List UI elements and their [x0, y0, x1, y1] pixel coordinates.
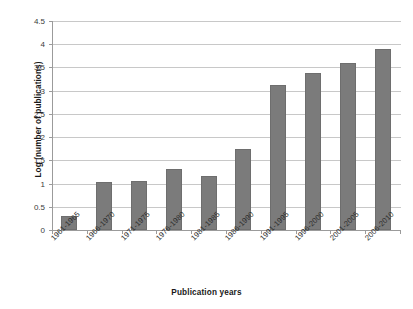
x-axis-tickmark: [87, 230, 88, 234]
y-axis-tick-label: 4.5: [34, 17, 45, 26]
x-axis-tickmark: [226, 230, 227, 234]
bar-chart: Log (number of publications) 00.511.522.…: [0, 0, 413, 309]
x-axis-tickmark: [156, 230, 157, 234]
x-axis-title: Publication years: [0, 288, 413, 297]
y-axis-tick-label: 2: [41, 133, 45, 142]
y-axis-tick-label: 3: [41, 86, 45, 95]
bar: [305, 73, 321, 230]
x-axis-tickmark: [365, 230, 366, 234]
bar: [340, 63, 356, 230]
bars-layer: [52, 21, 400, 230]
x-axis-tickmark: [52, 230, 53, 234]
y-axis-tick-label: 3.5: [34, 63, 45, 72]
x-axis-tickmark: [330, 230, 331, 234]
y-axis-tick-label: 1.5: [34, 156, 45, 165]
x-axis-tickmark: [191, 230, 192, 234]
y-axis-tick-label: 4: [41, 40, 45, 49]
x-axis-tickmark: [296, 230, 297, 234]
x-axis-tickmark: [261, 230, 262, 234]
y-axis-tick-label: 0.5: [34, 202, 45, 211]
y-axis-tick-label: 1: [41, 179, 45, 188]
y-axis-tick-labels: 00.511.522.533.544.5: [0, 0, 48, 309]
y-axis-tick-label: 0: [41, 226, 45, 235]
y-axis-tick-label: 2.5: [34, 109, 45, 118]
x-axis-tickmark: [400, 230, 401, 234]
bar: [375, 49, 391, 230]
x-axis-tickmark: [122, 230, 123, 234]
